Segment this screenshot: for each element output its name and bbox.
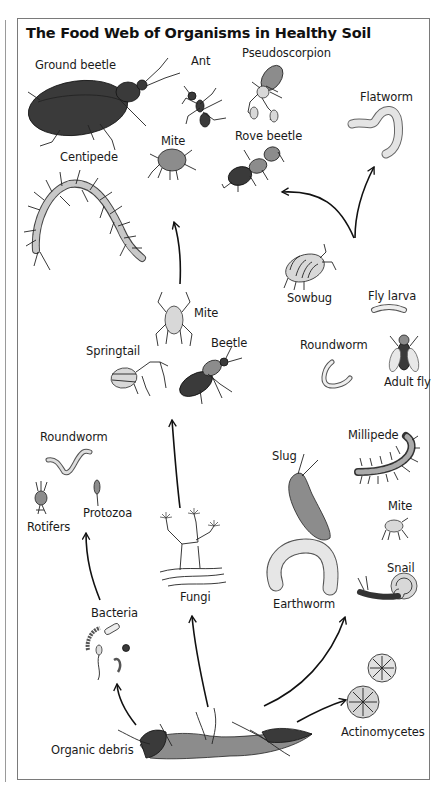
mite-mid-illustration — [156, 292, 192, 346]
earthworm-illustration — [274, 546, 331, 588]
label-fungi: Fungi — [180, 590, 211, 604]
rove-beetle-illustration — [222, 145, 284, 192]
label-bacteria: Bacteria — [91, 606, 138, 620]
label-earthworm: Earthworm — [273, 597, 335, 611]
rotifers-illustration — [35, 481, 47, 514]
label-millipede: Millipede — [348, 428, 399, 442]
fly-larva-illustration — [374, 307, 404, 310]
fungi-illustration — [160, 508, 226, 586]
roundworm-left-illustration — [48, 451, 90, 473]
food-web-illustration — [0, 0, 445, 786]
label-beetle: Beetle — [211, 336, 247, 350]
millipede-illustration — [358, 436, 420, 484]
label-pseudoscorpion: Pseudoscorpion — [242, 46, 331, 60]
arrow-sowbug-to-rove-beetle — [282, 192, 354, 238]
label-organic-debris: Organic debris — [51, 743, 134, 757]
label-ant: Ant — [191, 54, 210, 68]
beetle-illustration — [175, 346, 242, 404]
arrow-debris-to-bacteria — [117, 684, 136, 725]
label-mite-mid: Mite — [194, 306, 218, 320]
label-actinomycetes: Actinomycetes — [341, 725, 425, 739]
sowbug-illustration — [282, 244, 336, 290]
label-roundworm-left: Roundworm — [40, 430, 108, 444]
flatworm-illustration — [352, 110, 399, 154]
pseudoscorpion-illustration — [248, 61, 287, 122]
label-protozoa: Protozoa — [83, 506, 132, 520]
arrow-debris-to-fungi — [192, 616, 208, 707]
arrow-debris-to-earthworm — [264, 617, 345, 706]
label-rove-beetle: Rove beetle — [235, 129, 302, 143]
centipede-illustration — [24, 170, 142, 270]
label-mite-top: Mite — [161, 134, 185, 148]
mite-top-illustration — [148, 149, 196, 180]
label-adult-fly: Adult fly — [384, 375, 431, 389]
label-flatworm: Flatworm — [360, 90, 413, 104]
roundworm-right-illustration — [324, 362, 350, 386]
arrow-mite-to-mite — [174, 222, 180, 284]
mite-low-illustration — [382, 518, 408, 540]
bacteria-illustration — [88, 622, 130, 680]
adult-fly-illustration — [387, 335, 421, 373]
actinomycetes-illustration — [347, 654, 396, 718]
label-roundworm-right: Roundworm — [300, 338, 368, 352]
label-centipede: Centipede — [60, 150, 118, 164]
label-slug: Slug — [272, 449, 297, 463]
arrow-sowbug-to-flatworm — [355, 167, 374, 238]
arrow-bacteria-to-protozoa — [86, 533, 100, 600]
slug-illustration — [289, 454, 330, 540]
label-ground-beetle: Ground beetle — [35, 58, 116, 72]
label-sowbug: Sowbug — [287, 291, 332, 305]
springtail-illustration — [109, 362, 168, 396]
label-rotifers: Rotifers — [27, 520, 70, 534]
arrow-fungi-to-springtail — [172, 420, 180, 508]
label-snail: Snail — [387, 561, 415, 575]
label-mite-low: Mite — [388, 499, 412, 513]
label-fly-larva: Fly larva — [368, 289, 416, 303]
organic-debris-illustration — [118, 708, 312, 759]
protozoa-illustration — [94, 480, 100, 506]
label-springtail: Springtail — [86, 344, 140, 358]
arrow-debris-to-actinomycetes — [297, 700, 346, 722]
snail-illustration — [358, 573, 417, 599]
diagram-title: The Food Web of Organisms in Healthy Soi… — [26, 25, 371, 41]
ant-illustration — [182, 86, 226, 127]
